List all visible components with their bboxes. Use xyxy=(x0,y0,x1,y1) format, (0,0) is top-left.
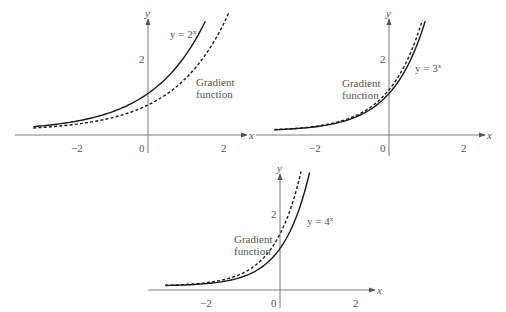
y-tick-2: 2 xyxy=(380,53,386,65)
gradient-curve-2x xyxy=(33,12,229,128)
graph-3x: x y −2 0 2 2 y = 3x Gradient function xyxy=(256,7,492,156)
curve-label: y = 2x xyxy=(170,28,197,40)
x-axis-label: x xyxy=(376,284,382,296)
gradient-label-line1: Gradient xyxy=(234,233,272,245)
graph-2x: x y −2 0 2 2 y = 2x Gradient function xyxy=(15,7,254,154)
gradient-curve-3x xyxy=(274,20,422,129)
x-tick-2: 2 xyxy=(221,142,227,154)
x-tick-neg2: −2 xyxy=(200,297,212,309)
x-tick-0: 0 xyxy=(380,142,386,154)
curve-3x xyxy=(274,21,425,130)
x-tick-2: 2 xyxy=(461,142,467,154)
y-axis-label: y xyxy=(144,7,150,19)
graph-4x: x y −2 0 2 2 y = 4x Gradient function xyxy=(148,162,382,309)
x-axis-label: x xyxy=(486,129,492,141)
y-tick-2: 2 xyxy=(271,208,277,220)
y-axis-label: y xyxy=(385,7,391,19)
y-axis-label: y xyxy=(276,162,282,174)
figure: x y −2 0 2 2 y = 2x Gradient function x … xyxy=(0,0,506,312)
x-tick-neg2: −2 xyxy=(309,142,321,154)
x-tick-0: 0 xyxy=(139,142,145,154)
gradient-curve-4x xyxy=(165,171,301,285)
gradient-label-line1: Gradient xyxy=(342,77,380,89)
gradient-label-line2: function xyxy=(342,89,379,101)
x-axis-label: x xyxy=(248,129,254,141)
x-tick-2: 2 xyxy=(353,297,359,309)
gradient-label-line1: Gradient xyxy=(196,76,234,88)
gradient-label-line2: function xyxy=(196,88,233,100)
gradient-label-line2: function xyxy=(234,245,271,257)
curve-label: y = 3x xyxy=(415,62,442,74)
curve-label: y = 4x xyxy=(307,215,334,227)
x-tick-0: 0 xyxy=(271,297,277,309)
curve-4x xyxy=(165,172,309,285)
x-tick-neg2: −2 xyxy=(71,142,83,154)
y-tick-2: 2 xyxy=(139,53,145,65)
